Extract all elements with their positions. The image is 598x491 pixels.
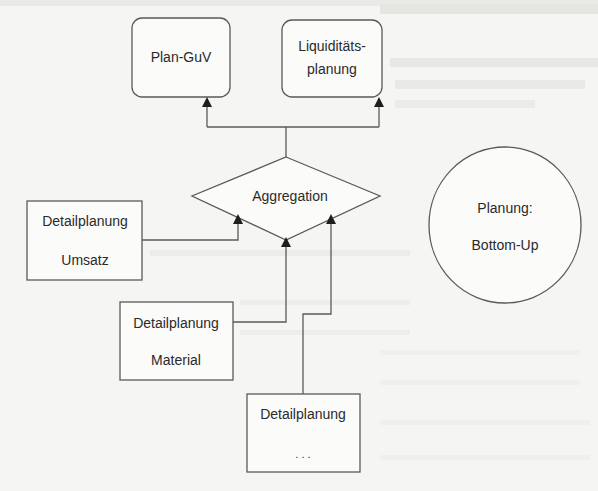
node-detailplanung-material: Detailplanung Material <box>120 302 233 380</box>
weitere-label-line2: . . . <box>295 448 310 460</box>
aggregation-label: Aggregation <box>252 188 328 204</box>
node-planung-bottom-up: Planung: Bottom-Up <box>429 147 581 303</box>
node-plan-guv: Plan-GuV <box>132 18 230 97</box>
edges-aggregation-to-outputs <box>202 97 384 157</box>
material-label-line1: Detailplanung <box>133 315 219 331</box>
bottom-up-label-line1: Planung: <box>477 200 532 216</box>
plan-guv-label: Plan-GuV <box>151 49 212 65</box>
diagram-canvas: Plan-GuV Liquiditäts- planung Aggregatio… <box>0 0 598 491</box>
material-label-line2: Material <box>151 352 201 368</box>
node-liquiditaetsplanung: Liquiditäts- planung <box>282 20 382 97</box>
node-detailplanung-weitere: Detailplanung . . . <box>247 394 360 472</box>
bottom-up-circle <box>429 147 581 303</box>
bottom-up-label-line2: Bottom-Up <box>472 237 539 253</box>
umsatz-label-line1: Detailplanung <box>42 213 128 229</box>
node-detailplanung-umsatz: Detailplanung Umsatz <box>27 201 142 280</box>
liquiditaet-label-line2: planung <box>307 61 357 77</box>
material-box <box>120 302 233 380</box>
arrowhead-liquiditaet-icon <box>374 97 384 107</box>
edge-umsatz-to-aggregation <box>142 214 243 240</box>
weitere-label-line1: Detailplanung <box>260 406 346 422</box>
liquiditaet-label-line1: Liquiditäts- <box>298 38 366 54</box>
umsatz-label-line2: Umsatz <box>61 252 108 268</box>
edge-material-to-aggregation <box>233 237 291 322</box>
arrowhead-plan-guv-icon <box>202 97 212 107</box>
liquiditaet-box <box>282 20 382 97</box>
node-aggregation: Aggregation <box>192 157 380 240</box>
diagram-svg: Plan-GuV Liquiditäts- planung Aggregatio… <box>0 0 598 491</box>
